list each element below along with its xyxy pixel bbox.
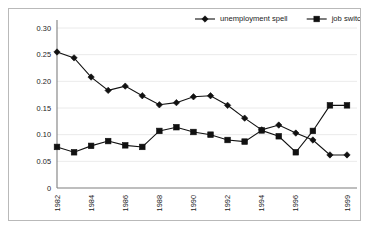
data-point-marker-square	[191, 129, 197, 135]
data-point-marker-square	[54, 144, 60, 150]
data-point-marker-diamond	[276, 122, 282, 128]
y-tick-label: 0	[47, 184, 51, 193]
x-tick-label: 1992	[223, 195, 232, 211]
data-point-marker-square	[276, 133, 282, 139]
data-point-marker-diamond	[207, 93, 213, 99]
legend-label: unemployment spell	[220, 14, 288, 23]
y-tick-label: 0.05	[37, 157, 51, 166]
series-job-switch	[54, 103, 350, 156]
data-point-marker-square	[242, 139, 248, 145]
series-unemployment-spell	[54, 49, 350, 158]
data-point-marker-square	[314, 16, 320, 22]
data-point-marker-square	[208, 132, 214, 138]
data-point-marker-square	[259, 128, 265, 134]
data-series	[54, 49, 350, 158]
data-point-marker-square	[310, 128, 316, 134]
y-axis-tick-labels: 00.050.100.150.200.250.30	[37, 24, 51, 193]
chart-container: 00.050.100.150.200.250.30 19821984198619…	[8, 8, 361, 221]
x-tick-label: 1990	[189, 195, 198, 211]
data-point-marker-diamond	[344, 152, 350, 158]
data-point-marker-diamond	[54, 49, 60, 55]
x-tick-label: 1986	[121, 195, 130, 211]
data-point-marker-diamond	[202, 16, 208, 22]
data-point-marker-diamond	[190, 94, 196, 100]
y-tick-label: 0.15	[37, 104, 51, 113]
y-tick-label: 0.10	[37, 130, 51, 139]
line-chart: 00.050.100.150.200.250.30 19821984198619…	[9, 9, 360, 220]
data-point-marker-diamond	[139, 93, 145, 99]
data-point-marker-square	[327, 103, 333, 109]
legend-item-unemployment-spell[interactable]: unemployment spell	[195, 14, 288, 23]
chart-legend[interactable]: unemployment spelljob switch	[195, 14, 360, 23]
x-axis-tick-labels: 198219841986198819901992199419961999	[53, 195, 352, 211]
y-tick-label: 0.25	[37, 50, 51, 59]
data-point-marker-square	[293, 149, 299, 155]
x-tick-label: 1994	[257, 195, 266, 211]
axes	[57, 20, 357, 188]
data-point-marker-square	[105, 138, 111, 144]
data-point-marker-square	[88, 143, 94, 149]
legend-label: job switch	[331, 14, 360, 23]
x-tick-label: 1999	[343, 195, 352, 211]
data-point-marker-square	[139, 144, 145, 150]
data-point-marker-square	[344, 103, 350, 109]
legend-item-job-switch[interactable]: job switch	[307, 14, 360, 23]
data-point-marker-square	[122, 143, 128, 149]
series-line	[57, 105, 347, 152]
data-point-marker-diamond	[156, 102, 162, 108]
x-tick-label: 1988	[155, 195, 164, 211]
y-tick-label: 0.20	[37, 77, 51, 86]
data-point-marker-square	[157, 128, 163, 134]
series-line	[57, 52, 347, 155]
data-point-marker-square	[71, 149, 77, 155]
data-point-marker-square	[174, 124, 180, 130]
data-point-marker-diamond	[122, 83, 128, 89]
data-point-marker-diamond	[173, 99, 179, 105]
data-point-marker-diamond	[293, 130, 299, 136]
y-tick-label: 0.30	[37, 24, 51, 33]
data-point-marker-square	[225, 137, 231, 143]
x-tick-label: 1982	[53, 195, 62, 211]
x-tick-label: 1996	[291, 195, 300, 211]
x-tick-label: 1984	[87, 195, 96, 211]
